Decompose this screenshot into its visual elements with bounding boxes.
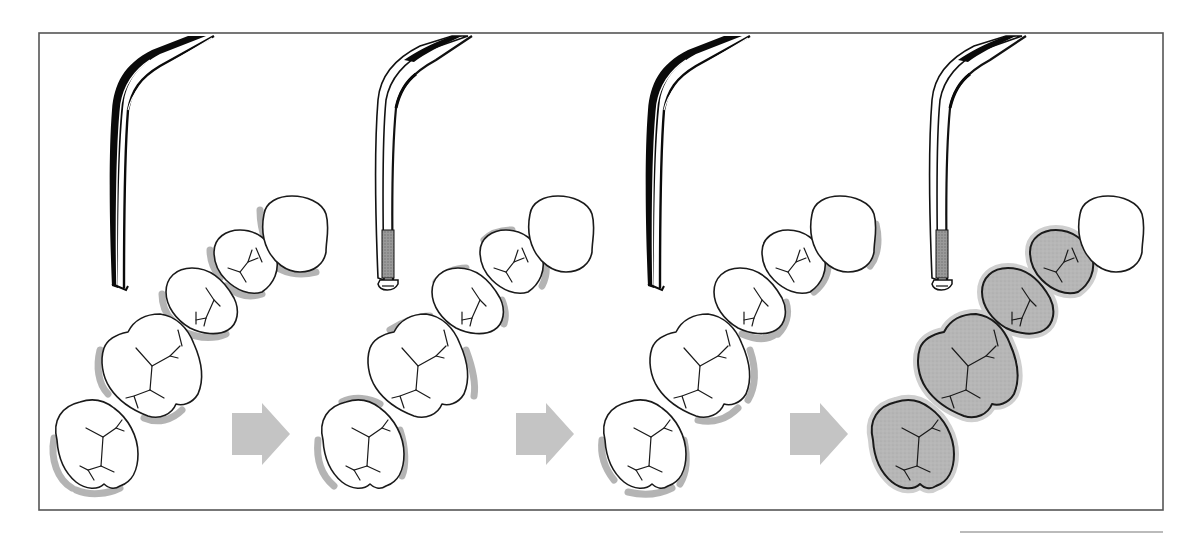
panel-3 bbox=[602, 196, 878, 494]
panel-1-teeth bbox=[56, 196, 328, 488]
tooth-first-molar bbox=[56, 400, 138, 488]
curette-hatched-tip-icon bbox=[376, 36, 472, 290]
arrow-right-icon bbox=[790, 403, 848, 465]
curette-icon bbox=[646, 36, 750, 290]
arrow-right-icon bbox=[232, 403, 290, 465]
panel-1 bbox=[53, 36, 328, 494]
curette-icon bbox=[110, 36, 214, 290]
curette-hatched-tip-icon bbox=[930, 36, 1026, 290]
panel-4 bbox=[872, 196, 1144, 488]
tooth-first-molar bbox=[322, 400, 404, 488]
tooth-first-molar bbox=[604, 400, 686, 488]
dental-instrumentation-figure bbox=[0, 0, 1186, 535]
arrow-right-icon bbox=[516, 403, 574, 465]
panel-4-teeth bbox=[872, 196, 1144, 488]
